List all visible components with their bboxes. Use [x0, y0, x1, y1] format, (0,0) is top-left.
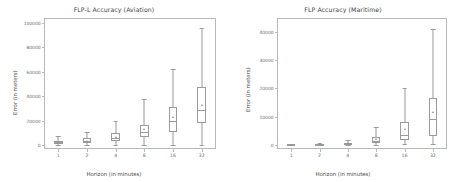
- y-axis-label-aviation: Error (in meters): [12, 70, 18, 115]
- y-axis-tick-label: 10000: [260, 114, 274, 119]
- whisker-lower: [201, 123, 202, 144]
- cap-upper: [113, 121, 118, 122]
- plot-area-maritime: [277, 18, 447, 149]
- box-plot-32: [429, 0, 438, 182]
- mean-marker: [404, 128, 406, 130]
- y-axis-tick-label: 20000: [260, 86, 274, 91]
- cap-lower: [113, 145, 118, 146]
- whisker-upper: [144, 99, 145, 125]
- mean-marker: [86, 140, 88, 142]
- median-line: [197, 110, 206, 111]
- cap-upper: [142, 99, 147, 100]
- median-line: [372, 141, 381, 142]
- box-plot-1: [287, 0, 296, 182]
- cap-upper: [345, 140, 350, 141]
- cap-upper: [85, 132, 90, 133]
- mean-marker: [319, 143, 321, 145]
- box-plot-4: [111, 0, 120, 182]
- mean-marker: [347, 142, 349, 144]
- cap-lower: [199, 145, 204, 146]
- median-line: [429, 119, 438, 120]
- cap-lower: [374, 145, 379, 146]
- y-axis-tick-label: 100000: [24, 20, 41, 25]
- cap-upper: [56, 136, 61, 137]
- y-axis-tick-label: 40000: [260, 30, 274, 35]
- boxplot-figure: FLP-L Accuracy (Aviation) Error (in mete…: [0, 0, 457, 182]
- y-axis-tick-mark: [275, 60, 278, 61]
- whisker-lower: [432, 136, 433, 144]
- box-plot-16: [400, 0, 409, 182]
- y-axis-tick-label: 60000: [27, 69, 41, 74]
- box-plot-2: [315, 0, 324, 182]
- cap-lower: [171, 145, 176, 146]
- box-iqr: [429, 98, 438, 135]
- box-iqr: [400, 122, 409, 140]
- whisker-upper: [404, 88, 405, 121]
- y-axis-tick-label: 20000: [27, 118, 41, 123]
- y-axis-tick-mark: [42, 145, 45, 146]
- plot-area-aviation: [44, 18, 216, 149]
- y-axis-tick-mark: [42, 121, 45, 122]
- y-axis-tick-mark: [275, 88, 278, 89]
- whisker-upper: [201, 28, 202, 87]
- whisker-upper: [376, 127, 377, 137]
- cap-lower: [142, 145, 147, 146]
- mean-marker: [432, 111, 434, 113]
- mean-marker: [172, 116, 174, 118]
- mean-marker: [201, 104, 203, 106]
- y-axis-tick-mark: [275, 145, 278, 146]
- y-axis-label-maritime: Error (in meters): [245, 67, 251, 112]
- whisker-lower: [144, 137, 145, 144]
- y-axis-tick-mark: [275, 117, 278, 118]
- box-iqr: [169, 107, 178, 131]
- whisker-upper: [115, 121, 116, 133]
- cap-lower: [345, 145, 350, 146]
- cap-lower: [85, 145, 90, 146]
- y-axis-tick-mark: [42, 96, 45, 97]
- cap-upper: [402, 88, 407, 89]
- y-axis-tick-mark: [42, 47, 45, 48]
- mean-marker: [290, 144, 292, 146]
- cap-upper: [374, 127, 379, 128]
- y-axis-tick-label: 0: [271, 142, 274, 147]
- cap-upper: [430, 29, 435, 30]
- mean-marker: [115, 136, 117, 138]
- cap-lower: [56, 145, 61, 146]
- y-axis-tick-mark: [42, 72, 45, 73]
- mean-marker: [143, 128, 145, 130]
- whisker-lower: [172, 132, 173, 145]
- mean-marker: [57, 141, 59, 143]
- chart-panel-maritime: FLP Accuracy (Maritime) Error (in meters…: [229, 0, 457, 182]
- whisker-upper: [432, 29, 433, 98]
- box-plot-8: [372, 0, 381, 182]
- median-line: [140, 132, 149, 133]
- median-line: [400, 135, 409, 136]
- median-line: [169, 121, 178, 122]
- median-line: [111, 138, 120, 139]
- cap-lower: [430, 144, 435, 145]
- cap-lower: [402, 144, 407, 145]
- y-axis-tick-label: 0: [38, 143, 41, 148]
- box-plot-2: [83, 0, 92, 182]
- y-axis-tick-label: 30000: [260, 58, 274, 63]
- box-plot-4: [344, 0, 353, 182]
- box-plot-1: [54, 0, 63, 182]
- box-plot-16: [169, 0, 178, 182]
- box-plot-8: [140, 0, 149, 182]
- y-axis-tick-label: 40000: [27, 94, 41, 99]
- cap-upper: [171, 69, 176, 70]
- y-axis-tick-mark: [42, 23, 45, 24]
- whisker-upper: [172, 69, 173, 107]
- chart-panel-aviation: FLP-L Accuracy (Aviation) Error (in mete…: [0, 0, 228, 182]
- cap-upper: [199, 28, 204, 29]
- mean-marker: [375, 138, 377, 140]
- y-axis-tick-mark: [275, 32, 278, 33]
- box-plot-32: [197, 0, 206, 182]
- y-axis-tick-label: 80000: [27, 45, 41, 50]
